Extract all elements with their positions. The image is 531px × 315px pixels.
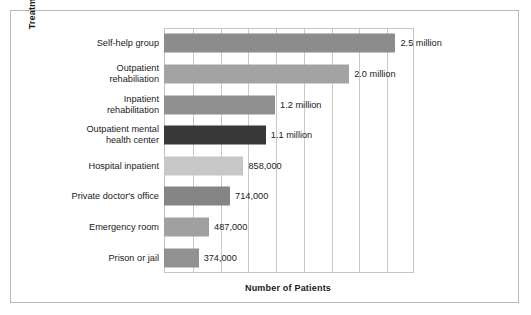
bar <box>164 126 266 145</box>
bar <box>164 95 275 114</box>
chart-figure: Treatment Location Self-help group2.5 mi… <box>10 10 519 303</box>
bar-value-label: 374,000 <box>199 253 237 263</box>
category-label: Inpatient rehabilitation <box>29 94 159 116</box>
category-label: Private doctor's office <box>29 191 159 202</box>
bar <box>164 156 243 175</box>
category-label: Prison or jail <box>29 252 159 263</box>
bar-row: Hospital inpatient858,000 <box>164 151 414 182</box>
bar-value-label: 714,000 <box>230 191 268 201</box>
bar-value-label: 2.5 million <box>395 38 441 48</box>
y-axis-title: Treatment Location <box>25 0 39 61</box>
x-axis-title: Number of Patients <box>163 283 413 293</box>
bar-value-label: 1.2 million <box>275 100 321 110</box>
category-label: Outpatient mental health center <box>29 124 159 146</box>
bar-row: Inpatient rehabilitation1.2 million <box>164 89 414 120</box>
bar <box>164 218 209 237</box>
category-label: Hospital inpatient <box>29 160 159 171</box>
bar <box>164 34 395 53</box>
bar-row: Private doctor's office714,000 <box>164 181 414 212</box>
bar-value-label: 487,000 <box>209 222 247 232</box>
bar-rows: Self-help group2.5 millionOutpatient reh… <box>164 28 414 273</box>
bar-row: Prison or jail374,000 <box>164 242 414 273</box>
bar-row: Self-help group2.5 million <box>164 28 414 59</box>
bar <box>164 248 199 267</box>
category-label: Outpatient rehabiliation <box>29 63 159 85</box>
bar <box>164 187 230 206</box>
category-label: Self-help group <box>29 38 159 49</box>
bar <box>164 64 349 83</box>
bar-value-label: 858,000 <box>243 161 281 171</box>
bar-row: Outpatient mental health center1.1 milli… <box>164 120 414 151</box>
bar-value-label: 1.1 million <box>266 130 312 140</box>
category-label: Emergency room <box>29 222 159 233</box>
bar-row: Outpatient rehabiliation2.0 million <box>164 59 414 90</box>
bar-row: Emergency room487,000 <box>164 212 414 243</box>
bar-value-label: 2.0 million <box>349 69 395 79</box>
